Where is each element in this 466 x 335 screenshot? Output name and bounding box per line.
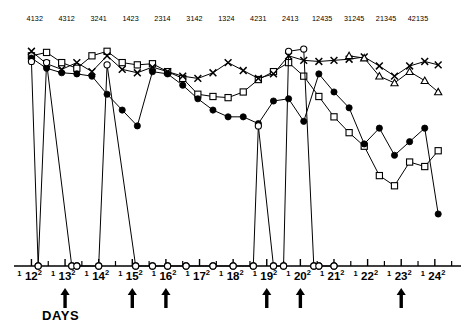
event-arrow-day-19 xyxy=(262,288,271,308)
day-superscript: 2 xyxy=(206,268,210,277)
baseline-marker xyxy=(331,263,337,269)
day-label-24: 242 xyxy=(428,270,445,282)
axis-title-days: DAYS xyxy=(42,308,79,323)
day-number: 20 xyxy=(294,270,307,282)
day-superscript: 2 xyxy=(441,268,445,277)
day-superscript: 2 xyxy=(273,268,277,277)
top-sequence-label: 42135 xyxy=(408,14,429,23)
event-arrow-day-16 xyxy=(161,288,170,308)
top-sequence-label: 4132 xyxy=(27,14,43,23)
baseline-marker xyxy=(164,263,170,269)
day-label-17: 172 xyxy=(193,270,210,282)
day-label-13: 132 xyxy=(59,270,76,282)
top-sequence-label: 3241 xyxy=(90,14,106,23)
series-layer xyxy=(28,46,442,269)
day-superscript: 2 xyxy=(239,268,243,277)
day-label-23: 232 xyxy=(395,270,412,282)
day-superscript: 2 xyxy=(71,268,75,277)
day-label-20: 202 xyxy=(294,270,311,282)
top-sequence-label: 31245 xyxy=(344,14,365,23)
day-number: 24 xyxy=(428,270,441,282)
day-superscript: 2 xyxy=(139,268,143,277)
day-number: 19 xyxy=(260,270,273,282)
day-label-14: 142 xyxy=(92,270,109,282)
minor-tick-label: 1 xyxy=(185,269,189,278)
top-sequence-label: 1324 xyxy=(218,14,234,23)
minor-tick-label: 1 xyxy=(253,269,257,278)
day-label-12: 122 xyxy=(25,270,42,282)
day-superscript: 2 xyxy=(38,268,42,277)
minor-tick-label: 1 xyxy=(219,269,223,278)
day-number: 13 xyxy=(59,270,72,282)
top-sequence-label: 1423 xyxy=(122,14,138,23)
baseline-marker xyxy=(96,263,102,269)
event-arrow-day-23 xyxy=(397,288,406,308)
minor-tick-label: 1 xyxy=(354,269,358,278)
baseline-marker xyxy=(230,263,236,269)
day-superscript: 2 xyxy=(172,268,176,277)
day-number: 22 xyxy=(361,270,374,282)
chart-figure: 4132431232411423231431421324423124131243… xyxy=(0,0,466,335)
day-label-22: 222 xyxy=(361,270,378,282)
top-sequence-label: 12435 xyxy=(312,14,333,23)
day-number: 16 xyxy=(159,270,172,282)
minor-tick-label: 1 xyxy=(85,269,89,278)
top-sequence-label: 21345 xyxy=(376,14,397,23)
day-number: 17 xyxy=(193,270,206,282)
x-axis xyxy=(14,259,461,269)
day-number: 12 xyxy=(25,270,38,282)
top-sequence-label: 2314 xyxy=(154,14,170,23)
day-superscript: 2 xyxy=(340,268,344,277)
minor-tick-label: 1 xyxy=(320,269,324,278)
day-label-16: 162 xyxy=(159,270,176,282)
day-number: 18 xyxy=(227,270,240,282)
line-chart-plot xyxy=(0,0,466,335)
day-label-19: 192 xyxy=(260,270,277,282)
event-arrow-day-20 xyxy=(296,288,305,308)
minor-tick-label: 1 xyxy=(421,269,425,278)
day-label-18: 182 xyxy=(227,270,244,282)
minor-tick-label: 1 xyxy=(51,269,55,278)
day-superscript: 2 xyxy=(374,268,378,277)
minor-tick-label: 1 xyxy=(17,269,21,278)
day-number: 14 xyxy=(92,270,105,282)
minor-tick-label: 1 xyxy=(387,269,391,278)
event-arrows xyxy=(60,288,405,308)
baseline-marker xyxy=(210,263,216,269)
day-label-21: 212 xyxy=(328,270,345,282)
event-arrow-day-15 xyxy=(128,288,137,308)
minor-tick-label: 1 xyxy=(286,269,290,278)
minor-tick-label: 1 xyxy=(118,269,122,278)
day-number: 23 xyxy=(395,270,408,282)
top-sequence-label: 4312 xyxy=(58,14,74,23)
day-superscript: 2 xyxy=(105,268,109,277)
top-sequence-label: 3142 xyxy=(186,14,202,23)
day-label-15: 152 xyxy=(126,270,143,282)
event-arrow-day-13 xyxy=(60,288,69,308)
top-sequence-label: 4231 xyxy=(250,14,266,23)
top-sequence-label: 2413 xyxy=(282,14,298,23)
day-number: 21 xyxy=(328,270,341,282)
minor-tick-label: 1 xyxy=(152,269,156,278)
day-superscript: 2 xyxy=(307,268,311,277)
day-superscript: 2 xyxy=(408,268,412,277)
day-number: 15 xyxy=(126,270,139,282)
